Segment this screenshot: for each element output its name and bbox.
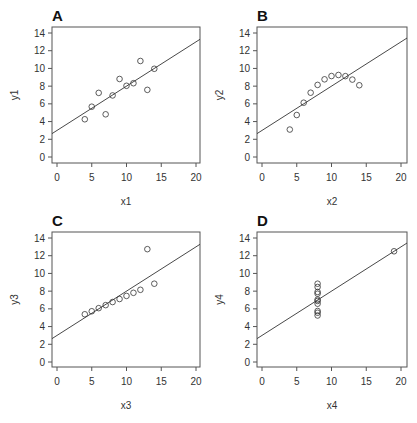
data-point: [308, 90, 314, 96]
data-point: [322, 77, 328, 83]
x-tick-label: 20: [190, 172, 202, 183]
y-tick-label: 10: [34, 63, 46, 74]
data-point: [82, 311, 88, 317]
x-tick-label: 0: [259, 376, 265, 387]
panel-d: 0510152002468101214x4y4D: [214, 212, 414, 411]
data-point: [124, 293, 130, 299]
regression-line: [250, 239, 414, 343]
plot-frame: [257, 232, 407, 367]
plot-frame: [52, 27, 200, 163]
x-axis-label: x1: [121, 196, 132, 207]
plot-frame: [52, 232, 200, 367]
panel-b: 0510152002468101214x2y2B: [214, 7, 414, 207]
x-axis-label: x2: [327, 196, 338, 207]
y-tick-label: 14: [239, 233, 251, 244]
y-tick-label: 6: [39, 98, 45, 109]
panel-a: 0510152002468101214x1y1A: [9, 7, 207, 207]
x-tick-label: 0: [259, 172, 265, 183]
x-tick-label: 0: [54, 172, 60, 183]
x-tick-label: 5: [294, 376, 300, 387]
panel-title: A: [52, 7, 63, 24]
x-tick-label: 5: [89, 172, 95, 183]
y-axis-label: y4: [214, 294, 225, 305]
x-tick-label: 15: [156, 376, 168, 387]
data-point: [117, 76, 123, 82]
regression-line: [250, 34, 414, 138]
data-point: [350, 77, 356, 83]
data-point: [152, 281, 158, 287]
y-tick-label: 14: [239, 28, 251, 39]
regression-line: [45, 35, 207, 138]
panel-title: C: [52, 212, 63, 229]
y-tick-label: 4: [39, 321, 45, 332]
y-tick-label: 2: [244, 134, 250, 145]
y-tick-label: 10: [239, 268, 251, 279]
y-tick-label: 2: [244, 339, 250, 350]
y-tick-label: 4: [244, 321, 250, 332]
x-tick-label: 20: [395, 376, 407, 387]
y-tick-label: 8: [244, 286, 250, 297]
y-axis-label: y1: [9, 89, 20, 100]
x-axis-label: x3: [121, 400, 132, 411]
x-tick-label: 15: [156, 172, 168, 183]
y-tick-label: 12: [239, 250, 251, 261]
panel-title: B: [257, 7, 268, 24]
data-point: [138, 287, 144, 293]
y-tick-label: 4: [244, 116, 250, 127]
y-tick-label: 2: [39, 339, 45, 350]
y-tick-label: 0: [39, 152, 45, 163]
data-point: [131, 290, 137, 296]
x-tick-label: 10: [326, 376, 338, 387]
x-axis-label: x4: [327, 400, 338, 411]
y-tick-label: 4: [39, 116, 45, 127]
y-tick-label: 2: [39, 134, 45, 145]
panel-c: 0510152002468101214x3y3C: [9, 212, 207, 411]
x-tick-label: 15: [361, 172, 373, 183]
y-tick-label: 12: [34, 45, 46, 56]
x-tick-label: 20: [190, 376, 202, 387]
y-tick-label: 6: [244, 98, 250, 109]
y-tick-label: 10: [34, 268, 46, 279]
data-point: [357, 82, 363, 88]
y-axis-label: y3: [9, 294, 20, 305]
data-point: [315, 82, 321, 88]
x-tick-label: 5: [294, 172, 300, 183]
x-tick-label: 10: [121, 376, 133, 387]
data-point: [336, 72, 342, 78]
anscombe-quartet-chart: 0510152002468101214x1y1A0510152002468101…: [0, 0, 417, 423]
y-tick-label: 8: [39, 286, 45, 297]
data-point: [96, 305, 102, 311]
y-tick-label: 0: [39, 357, 45, 368]
y-tick-label: 6: [39, 303, 45, 314]
x-tick-label: 20: [395, 172, 407, 183]
x-tick-label: 0: [54, 376, 60, 387]
y-tick-label: 0: [244, 152, 250, 163]
y-tick-label: 6: [244, 303, 250, 314]
y-tick-label: 8: [39, 81, 45, 92]
data-point: [117, 296, 123, 302]
data-point: [287, 127, 293, 133]
x-tick-label: 15: [361, 376, 373, 387]
y-axis-label: y2: [214, 89, 225, 100]
data-point: [315, 281, 321, 287]
data-point: [103, 302, 109, 308]
plot-frame: [257, 27, 407, 163]
x-tick-label: 10: [121, 172, 133, 183]
y-tick-label: 12: [239, 45, 251, 56]
data-point: [82, 116, 88, 122]
data-point: [329, 73, 335, 79]
data-point: [145, 246, 151, 252]
regression-line: [45, 240, 207, 343]
data-point: [145, 87, 151, 93]
data-point: [138, 58, 144, 64]
data-point: [294, 112, 300, 118]
panel-title: D: [257, 212, 268, 229]
y-tick-label: 14: [34, 28, 46, 39]
data-point: [103, 112, 109, 118]
y-tick-label: 0: [244, 357, 250, 368]
y-tick-label: 10: [239, 63, 251, 74]
x-tick-label: 5: [89, 376, 95, 387]
y-tick-label: 8: [244, 81, 250, 92]
data-point: [96, 90, 102, 96]
y-tick-label: 12: [34, 250, 46, 261]
